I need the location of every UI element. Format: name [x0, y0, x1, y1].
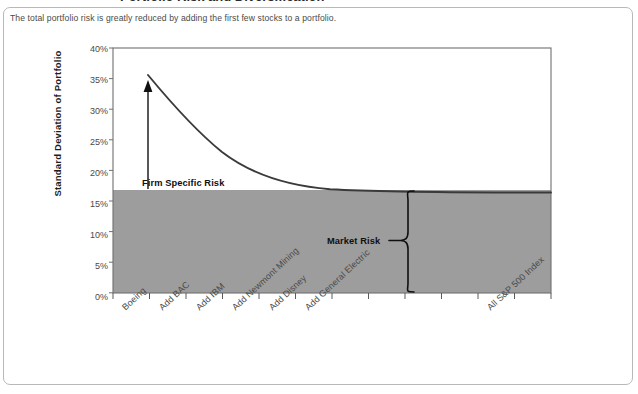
firm-specific-risk-label: Firm Specific Risk [142, 178, 224, 188]
diversification-chart: Standard Deviation of Portfolio 40% 35% … [0, 0, 638, 394]
y-axis-ticks [109, 48, 113, 293]
screenshot-root: Portfolio Risk and Diversification The t… [0, 0, 638, 394]
chart-svg [0, 0, 638, 394]
market-risk-label: Market Risk [327, 236, 380, 246]
